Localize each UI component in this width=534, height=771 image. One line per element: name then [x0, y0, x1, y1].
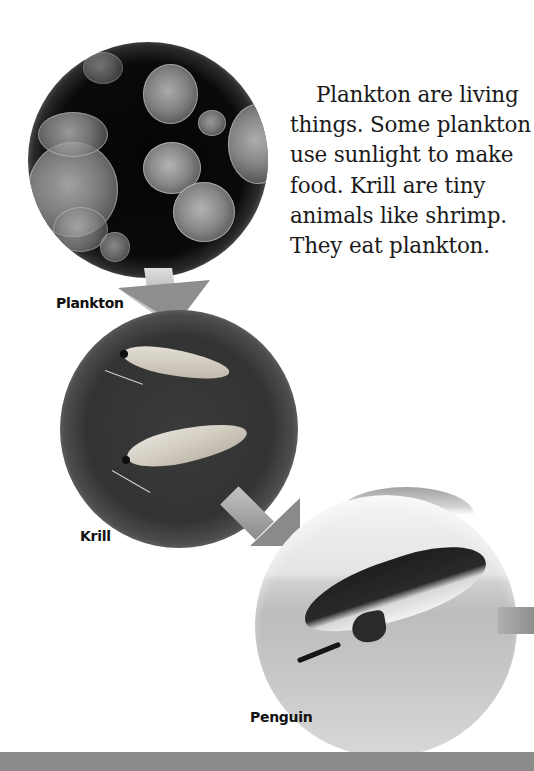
krill-eye: [120, 350, 128, 358]
plankton-cell: [143, 64, 198, 124]
krill-animal: [124, 416, 250, 475]
krill-eye: [122, 456, 130, 464]
body-paragraph: Plankton are living things. Some plankto…: [290, 80, 534, 261]
label-penguin: Penguin: [250, 709, 312, 725]
plankton-cell: [228, 104, 268, 184]
plankton-cell: [198, 110, 226, 136]
plankton-photo: [28, 42, 268, 278]
plankton-cell: [38, 112, 108, 157]
arrow-penguin-onward: [498, 607, 534, 634]
krill-leg: [105, 370, 143, 385]
krill-animal: [121, 341, 232, 385]
plankton-cell: [173, 182, 235, 242]
plankton-cell: [83, 52, 123, 84]
label-krill: Krill: [80, 528, 111, 544]
label-plankton: Plankton: [56, 295, 124, 311]
plankton-cell: [100, 232, 130, 262]
krill-leg: [112, 470, 151, 493]
page-footer-bar: [0, 752, 534, 771]
